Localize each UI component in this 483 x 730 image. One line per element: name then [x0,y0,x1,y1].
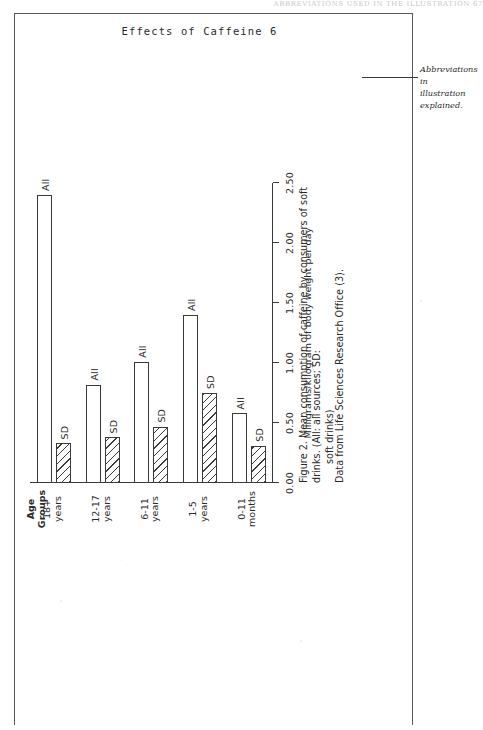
bar-sd [56,443,71,483]
bar-all [183,315,198,483]
bar-chart: 0.000.501.001.502.002.50 SDAll0-11 month… [30,183,273,483]
scan-speck [60,600,62,602]
bar-sd [202,393,217,483]
bar-label-all: All [235,397,246,409]
bar-label-all: All [40,179,51,191]
axis-tick-label: 2.00 [284,232,295,254]
bar-label-all: All [89,368,100,380]
axis-tick [273,302,279,303]
bar-group: SDAll [79,183,128,483]
bar-group: SDAll [127,183,176,483]
category-label: 0-11 months [237,487,258,531]
caption-line-1: Figure 2. Mean consumption of caffeine b… [298,187,322,483]
category-label: 12-17 years [91,487,112,531]
running-header: Effects of Caffeine 6 [0,25,399,37]
bar-label-sd: SD [108,420,119,434]
axis-tick [273,482,279,483]
annotation-line-2: illustration explained. [420,88,483,112]
scan-speck [300,640,302,642]
bar-label-sd: SD [205,375,216,389]
bar-all [37,195,52,483]
annotation-line-1: Abbreviations in [420,64,483,88]
bar-all [86,385,101,483]
bar-label-sd: SD [254,428,265,442]
bar-all [232,413,247,483]
scan-bleed-text: ABBREVIATIONS USED IN THE ILLUSTRATION 6… [150,0,483,9]
axis-tick [273,362,279,363]
scan-speck [120,560,121,561]
annotation-leader-line [362,77,418,78]
axis-tick-label: 1.00 [284,352,295,374]
axis-tick-label: 1.50 [284,292,295,314]
bar-label-sd: SD [156,409,167,423]
margin-annotation: Abbreviations in illustration explained. [420,64,483,112]
bar-group: SDAll [30,183,79,483]
figure-caption: Figure 2. Mean consumption of caffeine b… [298,183,337,483]
bar-group: SDAll [224,183,273,483]
bar-label-all: All [137,345,148,357]
axis-tick-label: 0.50 [284,412,295,434]
bar-sd [105,437,120,483]
bar-label-sd: SD [59,426,70,440]
margin-rule [412,13,413,725]
axis-tick [273,242,279,243]
figure-source: Data from Life Sciences Research Office … [334,183,345,483]
category-label: 6-11 years [140,487,161,531]
axis-tick [273,422,279,423]
bar-label-all: All [186,299,197,311]
axis-tick [273,182,279,183]
scan-speck [200,690,201,691]
category-label: 1-5 years [188,487,209,531]
bar-sd [153,427,168,483]
bar-sd [251,446,266,483]
bar-group: SDAll [176,183,225,483]
axis-tick-label: 0.00 [284,472,295,494]
scan-speck [420,300,422,302]
category-axis-title: Age Groups [26,487,47,531]
bar-all [134,362,149,483]
axis-tick-label: 2.50 [284,172,295,194]
